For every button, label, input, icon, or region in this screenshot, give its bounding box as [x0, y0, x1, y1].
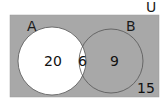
outside-count: 15 [137, 81, 155, 95]
set-a-only-count: 20 [44, 54, 62, 68]
set-b-only-count: 9 [110, 54, 119, 68]
set-b-label: B [126, 19, 136, 33]
set-a-label: A [27, 19, 37, 33]
universe-label: U [146, 0, 156, 14]
intersection-count: 6 [78, 54, 87, 68]
